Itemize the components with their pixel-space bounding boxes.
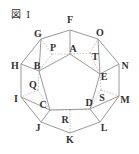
- vertex-label-r: R: [61, 114, 69, 125]
- vertex-label-h: H: [11, 60, 19, 71]
- vertex-label-j: J: [36, 122, 41, 133]
- vertex-label-t: T: [92, 51, 99, 62]
- edge-JI: [21, 97, 41, 122]
- vertex-label-i: I: [14, 93, 18, 104]
- edge-GF: [41, 30, 70, 39]
- vertex-label-g: G: [34, 28, 42, 39]
- edge-CJ: [41, 110, 50, 122]
- edge-DC: [50, 109, 90, 110]
- hidden-edge-QB: [38, 71, 39, 90]
- vertex-label-n: N: [121, 60, 129, 71]
- vertex-label-p: P: [50, 42, 56, 53]
- hidden-edge-PB: [39, 54, 52, 71]
- vertex-label-k: K: [66, 134, 74, 145]
- figure-title: 図 I: [11, 6, 31, 21]
- vertex-label-m: M: [120, 94, 130, 105]
- edge-BA: [39, 54, 70, 71]
- edge-ON: [98, 39, 119, 64]
- vertex-label-b: B: [34, 60, 41, 71]
- vertex-label-c: C: [39, 99, 46, 110]
- vertex-label-e: E: [101, 71, 108, 82]
- hidden-edge-QI: [21, 90, 38, 97]
- vertex-label-q: Q: [29, 79, 37, 90]
- vertex-label-a: A: [69, 43, 77, 54]
- vertex-label-o: O: [96, 27, 104, 38]
- vertex-labels: FONMLKJIHGAEDCBPTSRQ: [11, 14, 130, 145]
- polyhedron-net-drawing: FONMLKJIHGAEDCBPTSRQ: [0, 0, 139, 154]
- vertex-label-l: L: [101, 122, 108, 133]
- vertex-label-s: S: [99, 92, 105, 103]
- figure-diagram: 図 I FONMLKJIHGAEDCBPTSRQ: [0, 0, 139, 154]
- edge-DL: [90, 109, 100, 122]
- edge-FO: [70, 30, 98, 39]
- vertex-label-f: F: [67, 14, 73, 25]
- edge-LK: [70, 122, 100, 133]
- vertex-label-d: D: [85, 97, 92, 108]
